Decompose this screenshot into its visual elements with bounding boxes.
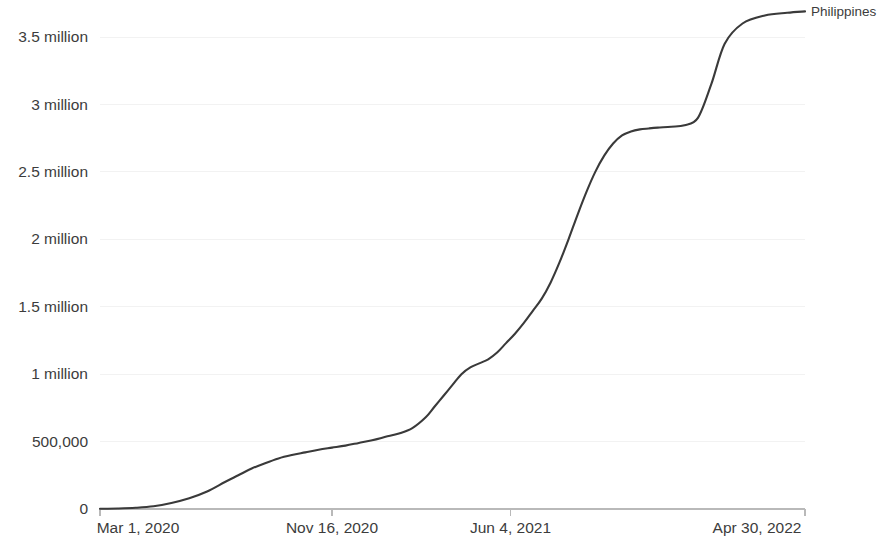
line-chart: 3.5 million3 million2.5 million2 million… <box>0 0 882 540</box>
y-axis-tick-label: 0 <box>79 500 88 517</box>
chart-container: 3.5 million3 million2.5 million2 million… <box>0 0 882 540</box>
x-axis-tick-label: Mar 1, 2020 <box>97 519 180 536</box>
data-series-group <box>100 11 805 508</box>
y-axis-tick-label: 3 million <box>31 96 88 113</box>
series-label-group: Philippines <box>811 4 877 19</box>
gridlines <box>100 37 805 442</box>
y-axis-tick-label: 1 million <box>31 365 88 382</box>
y-axis-tick-label: 2.5 million <box>18 163 88 180</box>
x-axis-tick-label: Apr 30, 2022 <box>713 519 802 536</box>
y-axis-tick-labels: 3.5 million3 million2.5 million2 million… <box>18 28 88 517</box>
data-line-philippines <box>100 11 805 508</box>
series-label-philippines: Philippines <box>811 4 877 19</box>
x-axis-tick-label: Jun 4, 2021 <box>470 519 551 536</box>
y-axis-tick-label: 2 million <box>31 230 88 247</box>
x-axis-tick-label: Nov 16, 2020 <box>286 519 379 536</box>
y-axis-tick-label: 500,000 <box>32 433 88 450</box>
x-axis <box>100 509 805 516</box>
y-axis-tick-label: 1.5 million <box>18 298 88 315</box>
y-axis-tick-label: 3.5 million <box>18 28 88 45</box>
x-axis-tick-labels: Mar 1, 2020Nov 16, 2020Jun 4, 2021Apr 30… <box>97 519 802 536</box>
